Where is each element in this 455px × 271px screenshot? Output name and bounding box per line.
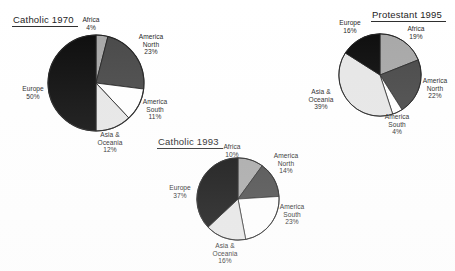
- slice-label-europe-value: 37%: [161, 192, 199, 200]
- pie-slice-europe: [48, 35, 96, 131]
- slice-label-america-north-value: 23%: [129, 48, 173, 56]
- slice-label-africa: Africa 10%: [215, 143, 249, 158]
- slice-label-asia-oceania-name2: Oceania: [203, 250, 247, 258]
- slice-label-america-south-value: 4%: [375, 128, 419, 136]
- slice-label-america-south: America South 4%: [375, 113, 419, 136]
- slice-label-africa: Africa 4%: [74, 16, 108, 31]
- slice-label-america-south-value: 11%: [133, 113, 177, 121]
- slice-label-asia-oceania-name1: Asia &: [88, 131, 132, 139]
- slice-label-america-north-name2: North: [414, 85, 455, 93]
- slice-label-europe-name: Europe: [161, 184, 199, 192]
- slice-label-asia-oceania-value: 16%: [203, 257, 247, 265]
- pie-svg-protestant-1995: [338, 33, 422, 117]
- slice-label-america-south-value: 23%: [270, 218, 314, 226]
- slice-label-asia-oceania-value: 12%: [88, 146, 132, 154]
- slice-label-asia-oceania: Asia & Oceania 12%: [88, 131, 132, 154]
- slice-label-america-south: America South 11%: [133, 98, 177, 121]
- slice-label-europe-name: Europe: [331, 19, 369, 27]
- slice-label-europe-value: 16%: [331, 27, 369, 35]
- slice-label-asia-oceania-name1: Asia &: [299, 88, 343, 96]
- slice-label-america-south-name2: South: [270, 211, 314, 219]
- slice-label-america-south-name2: South: [375, 121, 419, 129]
- slice-label-africa-name: Africa: [74, 16, 108, 24]
- slice-label-africa-name: Africa: [215, 143, 249, 151]
- slice-label-america-north-value: 22%: [414, 92, 455, 100]
- slice-label-america-north-name1: America: [264, 152, 308, 160]
- slice-label-america-south-name1: America: [133, 98, 177, 106]
- slice-label-america-north: America North 23%: [129, 33, 173, 56]
- chart-title-protestant-1995: Protestant 1995: [371, 9, 446, 22]
- slice-label-america-south-name2: South: [133, 106, 177, 114]
- slice-label-america-south-name1: America: [375, 113, 419, 121]
- slice-label-africa-value: 10%: [215, 151, 249, 159]
- slice-label-asia-oceania-name2: Oceania: [88, 139, 132, 147]
- slice-label-africa-name: Africa: [399, 25, 433, 33]
- slice-label-america-south-name1: America: [270, 203, 314, 211]
- slice-label-america-north-name1: America: [129, 33, 173, 41]
- slice-label-america-north-name1: America: [414, 77, 455, 85]
- slice-label-america-north: America North 14%: [264, 152, 308, 175]
- slice-label-asia-oceania-value: 39%: [299, 103, 343, 111]
- slice-label-africa-value: 19%: [399, 33, 433, 41]
- slice-label-america-north-name2: North: [264, 160, 308, 168]
- slice-label-asia-oceania-name2: Oceania: [299, 96, 343, 104]
- slice-label-america-north: America North 22%: [414, 77, 455, 100]
- slice-label-america-north-name2: North: [129, 41, 173, 49]
- figure-canvas: Catholic 1970 Africa 4% America North 23…: [0, 0, 455, 271]
- slice-label-asia-oceania-name1: Asia &: [203, 242, 247, 250]
- slice-label-asia-oceania: Asia & Oceania 16%: [203, 242, 247, 265]
- slice-label-europe: Europe 50%: [14, 85, 52, 100]
- chart-title-catholic-1993: Catholic 1993: [157, 136, 223, 149]
- slice-label-europe: Europe 16%: [331, 19, 369, 34]
- pie-graphic-protestant-1995: [338, 33, 422, 117]
- slice-label-europe: Europe 37%: [161, 184, 199, 199]
- slice-label-america-south: America South 23%: [270, 203, 314, 226]
- slice-label-asia-oceania: Asia & Oceania 39%: [299, 88, 343, 111]
- chart-title-catholic-1970: Catholic 1970: [12, 14, 78, 27]
- slice-label-africa: Africa 19%: [399, 25, 433, 40]
- slice-label-europe-name: Europe: [14, 85, 52, 93]
- slice-label-europe-value: 50%: [14, 93, 52, 101]
- slice-label-america-north-value: 14%: [264, 167, 308, 175]
- slice-label-africa-value: 4%: [74, 24, 108, 32]
